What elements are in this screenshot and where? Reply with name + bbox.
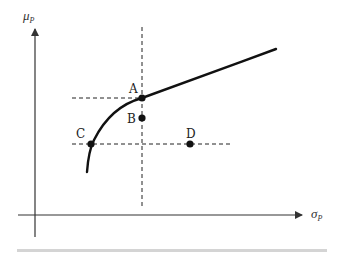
point-a-label: A: [128, 82, 138, 96]
point-c: [87, 140, 94, 147]
point-b-label: B: [127, 112, 136, 126]
efficient-frontier-curve: [87, 49, 276, 172]
diagram-canvas: μP σP A B C D: [0, 0, 338, 254]
point-b: [138, 114, 145, 121]
bottom-divider-bar: [17, 249, 327, 252]
point-a: [138, 94, 145, 101]
point-c-label: C: [76, 127, 85, 141]
x-axis-label: σP: [311, 206, 322, 223]
y-axis-label: μP: [22, 8, 35, 25]
point-d: [186, 140, 193, 147]
point-d-label: D: [186, 127, 196, 141]
